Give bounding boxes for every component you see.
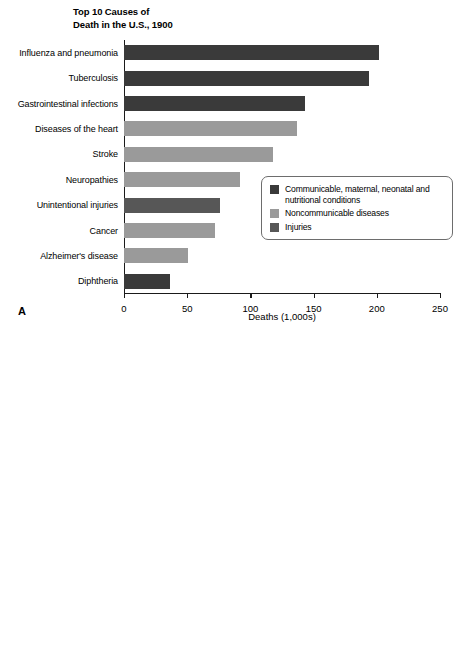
- bar-row: [124, 71, 369, 86]
- bar-communicable: [124, 45, 379, 60]
- panel-letter-a: A: [18, 305, 26, 317]
- legend-label: Communicable, maternal, neonatal and nut…: [285, 184, 443, 205]
- bar-noncommunicable: [124, 147, 273, 162]
- bar-row: [124, 45, 379, 60]
- category-label: Stroke: [93, 149, 118, 159]
- bar-group-1900: Influenza and pneumoniaTuberculosisGastr…: [124, 40, 440, 294]
- legend-item-communicable: Communicable, maternal, neonatal and nut…: [270, 184, 443, 205]
- bar-row: [124, 223, 215, 238]
- category-label: Unintentional injuries: [37, 200, 118, 210]
- figure-panel-a: Top 10 Causes of Death in the U.S., 1900…: [0, 0, 465, 330]
- bar-row: [124, 248, 188, 263]
- x-tick-label: 0: [121, 303, 126, 314]
- legend-swatch-communicable: [270, 185, 279, 194]
- bar-row: [124, 96, 305, 111]
- category-label: Diseases of the heart: [35, 124, 118, 134]
- category-label: Gastrointestinal infections: [18, 99, 118, 109]
- legend-swatch-injuries: [270, 223, 279, 232]
- category-label: Cancer: [90, 226, 118, 236]
- x-axis-label-1900: Deaths (1,000s): [248, 311, 316, 322]
- x-tick: [124, 293, 125, 298]
- bar-row: [124, 172, 240, 187]
- plot-area-1900: Influenza and pneumoniaTuberculosisGastr…: [124, 40, 440, 294]
- bar-row: [124, 274, 170, 289]
- x-tick: [250, 293, 251, 298]
- bar-row: [124, 147, 273, 162]
- x-tick: [187, 293, 188, 298]
- bar-noncommunicable: [124, 248, 188, 263]
- category-label: Alzheimer's disease: [40, 251, 118, 261]
- bar-noncommunicable: [124, 172, 240, 187]
- category-label: Tuberculosis: [69, 73, 119, 83]
- x-tick: [440, 293, 441, 298]
- legend-swatch-noncommunicable: [270, 209, 279, 218]
- legend-label: Injuries: [285, 222, 312, 233]
- legend-1900: Communicable, maternal, neonatal and nut…: [261, 176, 453, 240]
- x-tick-label: 250: [432, 303, 448, 314]
- bar-row: [124, 198, 220, 213]
- legend-item-injuries: Injuries: [270, 222, 443, 233]
- chart-title-1900: Top 10 Causes of Death in the U.S., 1900: [73, 6, 173, 31]
- legend-label: Noncommunicable diseases: [285, 208, 389, 219]
- figure-panel-b: Top 10 Causes of Death in the U.S., 2016…: [0, 330, 465, 648]
- bar-injuries: [124, 198, 220, 213]
- category-label: Diphtheria: [78, 276, 118, 286]
- x-tick-label: 200: [369, 303, 385, 314]
- category-label: Neuropathies: [66, 175, 118, 185]
- bar-communicable: [124, 71, 369, 86]
- category-label: Influenza and pneumonia: [19, 48, 118, 58]
- bar-communicable: [124, 274, 170, 289]
- x-tick: [314, 293, 315, 298]
- legend-item-noncommunicable: Noncommunicable diseases: [270, 208, 443, 219]
- bar-communicable: [124, 96, 305, 111]
- x-tick-label: 50: [182, 303, 193, 314]
- bar-noncommunicable: [124, 121, 297, 136]
- x-tick: [377, 293, 378, 298]
- bar-noncommunicable: [124, 223, 215, 238]
- bar-row: [124, 121, 297, 136]
